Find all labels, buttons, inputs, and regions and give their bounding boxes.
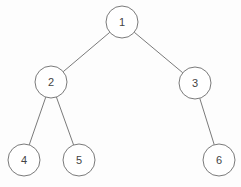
tree-node-2: 2 xyxy=(35,66,67,98)
node-label: 1 xyxy=(119,16,125,28)
node-label: 2 xyxy=(48,76,54,88)
node-label: 4 xyxy=(21,154,27,166)
tree-node-4: 4 xyxy=(8,144,40,176)
nodes-layer: 123456 xyxy=(8,6,235,176)
tree-diagram: 123456 xyxy=(0,0,241,187)
tree-node-1: 1 xyxy=(106,6,138,38)
node-label: 3 xyxy=(192,77,198,89)
tree-svg: 123456 xyxy=(0,0,241,187)
node-label: 6 xyxy=(216,154,222,166)
tree-node-6: 6 xyxy=(203,144,235,176)
node-label: 5 xyxy=(76,154,82,166)
edge-1-3 xyxy=(134,32,182,72)
edge-2-4 xyxy=(29,97,46,145)
tree-node-5: 5 xyxy=(63,144,95,176)
edge-2-5 xyxy=(56,97,73,145)
edge-1-2 xyxy=(63,32,110,71)
edge-3-6 xyxy=(200,98,214,144)
tree-node-3: 3 xyxy=(179,67,211,99)
